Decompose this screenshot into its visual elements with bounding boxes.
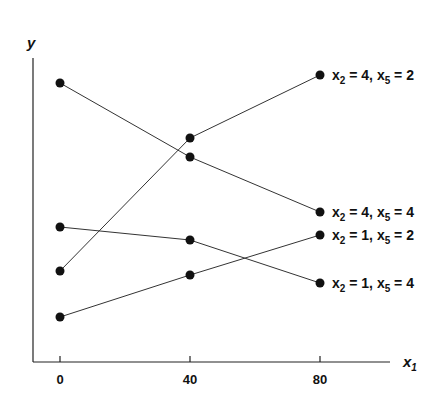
data-point — [56, 267, 65, 276]
series-label: x2 = 1, x5 = 2 — [332, 227, 414, 246]
data-point — [56, 313, 65, 322]
data-point — [56, 223, 65, 232]
x-tick-label: 0 — [56, 372, 63, 387]
series-line — [60, 83, 320, 212]
x-axis-label: x1 — [402, 353, 417, 373]
data-point — [186, 134, 195, 143]
series-label: x2 = 4, x5 = 4 — [332, 204, 414, 223]
data-point — [186, 271, 195, 280]
line-chart: y 04080 x1 x2 = 4, x5 = 2x2 = 4, x5 = 4x… — [0, 0, 444, 407]
y-axis-label: y — [26, 34, 36, 51]
data-point — [56, 79, 65, 88]
series-1: x2 = 4, x5 = 2 — [56, 67, 415, 276]
x-axis: 04080 x1 — [33, 353, 417, 387]
y-axis: y — [26, 34, 36, 362]
series-2: x2 = 4, x5 = 4 — [56, 79, 415, 224]
x-tick-label: 80 — [313, 372, 327, 387]
series-label: x2 = 4, x5 = 2 — [332, 67, 414, 86]
data-point — [316, 231, 325, 240]
data-point — [316, 208, 325, 217]
data-point — [316, 71, 325, 80]
series-label: x2 = 1, x5 = 4 — [332, 275, 414, 294]
series-layer: x2 = 4, x5 = 2x2 = 4, x5 = 4x2 = 1, x5 =… — [56, 67, 415, 322]
x-tick-label: 40 — [183, 372, 197, 387]
data-point — [316, 279, 325, 288]
data-point — [186, 153, 195, 162]
data-point — [186, 236, 195, 245]
